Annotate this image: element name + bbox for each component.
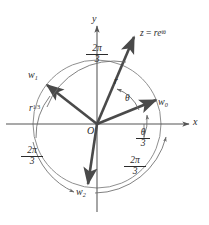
y-axis-label: y xyxy=(92,14,96,24)
theta-over-3-denominator: 3 xyxy=(136,138,150,149)
radius-exponent: 1/3 xyxy=(33,104,41,110)
w1-base: w xyxy=(28,69,35,80)
x-axis-label: x xyxy=(193,117,197,127)
w2-base: w xyxy=(76,186,83,197)
arc-bottom-left-denominator: 3 xyxy=(21,156,43,167)
origin-label: O xyxy=(87,126,94,136)
vector-w2-label: w2 xyxy=(76,187,86,198)
w1-subscript: 1 xyxy=(35,74,38,81)
arc-label-bottom-right: 2π 3 xyxy=(124,156,146,176)
z-symbol: z xyxy=(140,28,144,38)
exponent-i-theta: iθ xyxy=(161,29,165,35)
vector-z-label: z = reiθ xyxy=(140,29,166,39)
arc-bottom-right-numerator: 2π xyxy=(124,156,146,166)
arc-bottom-left-numerator: 2π xyxy=(21,146,43,156)
arc-label-top: 2π 3 xyxy=(86,44,108,64)
vector-w0-label: w0 xyxy=(158,97,168,108)
arc-top-denominator: 3 xyxy=(86,54,108,65)
angle-theta-label: θ xyxy=(125,94,130,104)
arc-label-bottom-left: 2π 3 xyxy=(21,146,43,166)
w0-base: w xyxy=(158,96,165,107)
arc-label-theta-over-3: θ 3 xyxy=(136,128,150,148)
w0-subscript: 0 xyxy=(165,101,168,108)
vector-w1-label: w1 xyxy=(28,70,38,81)
arc-top-numerator: 2π xyxy=(86,44,108,54)
arc-radius-indicator xyxy=(36,96,50,138)
equals-sign: = xyxy=(146,28,151,38)
arc-bottom-right-denominator: 3 xyxy=(124,166,146,177)
vector-w1 xyxy=(47,85,97,124)
complex-roots-diagram: y x O z = reiθ r θ w0 w1 w2 r1/3 2π 3 2π… xyxy=(0,0,209,225)
theta-over-3-numerator: θ xyxy=(136,128,150,138)
radius-cube-root-label: r1/3 xyxy=(29,104,40,114)
w2-subscript: 2 xyxy=(83,191,86,198)
magnitude-r-label: r xyxy=(114,77,118,87)
